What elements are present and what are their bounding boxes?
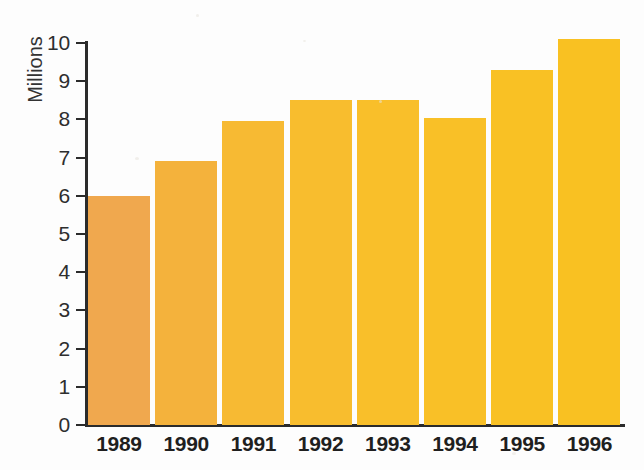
scan-speckle [135, 157, 139, 160]
bar-1992 [290, 100, 352, 425]
y-axis-tick [76, 233, 86, 235]
y-axis-tick-label-text: 1 [22, 376, 70, 397]
y-axis-tick-label-text: 9 [22, 70, 70, 91]
bar-1990 [155, 161, 217, 425]
x-axis-label-1995: 1995 [491, 432, 553, 456]
y-axis-tick-label-text: 2 [22, 338, 70, 359]
scan-speckle [196, 14, 199, 17]
y-axis-tick [76, 348, 86, 350]
y-axis-tick [76, 118, 86, 120]
bar-chart: Millions 109876543210 198919901991199219… [0, 0, 644, 470]
y-axis-tick-label: 3 [22, 299, 70, 321]
y-axis-tick-label-text: 8 [22, 108, 70, 129]
y-axis-tick-label: 4 [22, 261, 70, 283]
x-axis-label-1993: 1993 [357, 432, 419, 456]
y-axis-tick-label: 5 [22, 223, 70, 245]
bar-1993 [357, 100, 419, 425]
x-axis-label-1996: 1996 [558, 432, 620, 456]
y-axis-tick-label: 6 [22, 185, 70, 207]
x-axis-label-1994: 1994 [424, 432, 486, 456]
y-axis-tick [76, 424, 86, 426]
bar-1989 [88, 196, 150, 425]
y-axis-tick-label-text: 5 [22, 223, 70, 244]
y-axis-tick-label-text: 10 [22, 32, 70, 53]
scan-speckle [512, 452, 516, 455]
scan-speckle [303, 40, 306, 42]
x-axis-label-1992: 1992 [290, 432, 352, 456]
bar-1995 [491, 70, 553, 425]
y-axis-tick-label: 10 [22, 32, 70, 54]
y-axis-tick-label: 0 [22, 414, 70, 436]
x-axis-label-1990: 1990 [155, 432, 217, 456]
x-axis-label-1991: 1991 [222, 432, 284, 456]
y-axis-tick [76, 157, 86, 159]
x-axis-label-1989: 1989 [88, 432, 150, 456]
y-axis-tick-label: 9 [22, 70, 70, 92]
bar-1994 [424, 118, 486, 426]
scan-speckle [379, 100, 382, 103]
y-axis-tick-label-text: 7 [22, 147, 70, 168]
y-axis-tick-label: 2 [22, 338, 70, 360]
y-axis-tick-label-text: 4 [22, 261, 70, 282]
y-axis-tick-label-text: 3 [22, 299, 70, 320]
y-axis-tick [76, 309, 86, 311]
y-axis-tick-label: 7 [22, 147, 70, 169]
bar-1991 [222, 121, 284, 425]
y-axis-tick-label: 8 [22, 108, 70, 130]
y-axis-tick-label: 1 [22, 376, 70, 398]
y-axis-tick-label-text: 6 [22, 185, 70, 206]
plot-area: Millions 109876543210 198919901991199219… [0, 0, 644, 470]
y-axis-tick [76, 195, 86, 197]
y-axis-tick-label-text: 0 [22, 414, 70, 435]
y-axis-tick [76, 271, 86, 273]
y-axis-tick [76, 42, 86, 44]
bar-1996 [558, 39, 620, 425]
y-axis-tick [76, 386, 86, 388]
y-axis-tick [76, 80, 86, 82]
